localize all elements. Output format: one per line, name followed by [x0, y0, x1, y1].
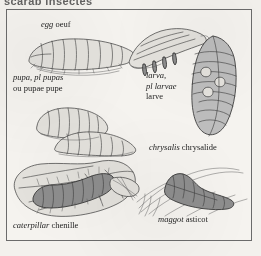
caption-pupa-english-alt: ou pupae [13, 83, 44, 93]
caption-caterpillar: caterpillar chenille [13, 220, 78, 231]
caption-maggot-french: asticot [186, 214, 208, 224]
caption-pupa-english: pupa, pl pupas [13, 72, 63, 82]
illustration-plate: scarab insectes egg oeuf [0, 0, 261, 256]
caption-larva-french: larve [146, 91, 163, 101]
running-head: scarab insectes [4, 0, 184, 7]
insect-egg-grub-illustration [21, 30, 141, 78]
caption-chrysalis-english: chrysalis [149, 142, 180, 152]
caption-egg-french: oeuf [55, 19, 70, 29]
caption-caterpillar-french: chenille [51, 220, 78, 230]
caption-egg: egg oeuf [41, 19, 71, 30]
caption-chrysalis: chrysalis chrysalide [149, 142, 217, 153]
caption-chrysalis-french: chrysalide [182, 142, 217, 152]
figure-frame: egg oeuf [6, 9, 252, 241]
caption-caterpillar-english: caterpillar [13, 220, 49, 230]
caption-egg-english: egg [41, 19, 53, 29]
running-head-text: scarab insectes [4, 0, 184, 7]
insect-pupa-illustration [31, 100, 143, 158]
caption-larva-english: larva, [146, 70, 166, 80]
caption-maggot-english: maggot [158, 214, 184, 224]
caption-larva-english-alt: pl larvae [146, 81, 176, 91]
caterpillar-on-leaf-illustration [9, 152, 145, 230]
maggot-illustration [135, 162, 251, 218]
caption-maggot: maggot asticot [158, 214, 208, 225]
insect-chrysalis-illustration [183, 32, 245, 140]
caption-pupa: pupa, pl pupas ou pupae pupe [13, 72, 63, 93]
caption-pupa-french: pupe [46, 83, 63, 93]
caption-larva: larva, pl larvae larve [146, 70, 176, 102]
